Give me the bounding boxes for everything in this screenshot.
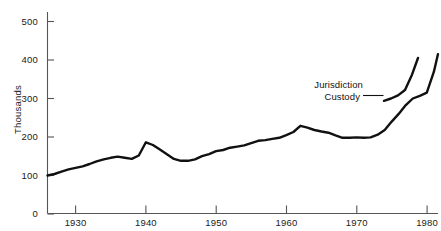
x-tick-label-1960: 1960 xyxy=(267,218,307,228)
y-tick-label-400: 400 xyxy=(8,55,38,65)
y-tick-label-500: 500 xyxy=(8,17,38,27)
prison-population-line-chart: Thousands 0 100 200 300 400 500 1930 194… xyxy=(0,0,441,231)
y-tick-label-200: 200 xyxy=(8,132,38,142)
y-tick-label-0: 0 xyxy=(8,209,38,219)
x-axis-ticks xyxy=(76,206,428,214)
x-tick-label-1940: 1940 xyxy=(126,218,166,228)
series-line-custody xyxy=(384,58,418,101)
series-line-jurisdiction xyxy=(48,54,439,175)
x-tick-label-1980: 1980 xyxy=(407,218,441,228)
y-tick-label-100: 100 xyxy=(8,171,38,181)
x-tick-label-1950: 1950 xyxy=(196,218,236,228)
custody-label: Custody xyxy=(263,91,360,103)
jurisdiction-label: Jurisdiction xyxy=(263,79,363,91)
y-axis-ticks xyxy=(48,22,55,215)
x-tick-label-1930: 1930 xyxy=(56,218,96,228)
y-tick-label-300: 300 xyxy=(8,94,38,104)
chart-plot-area xyxy=(0,0,441,231)
x-tick-label-1970: 1970 xyxy=(337,218,377,228)
